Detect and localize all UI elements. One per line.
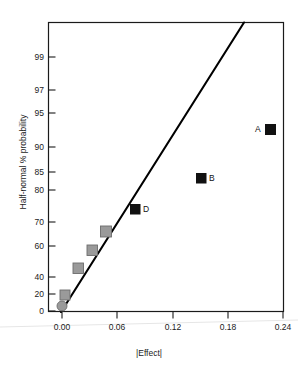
point-label-a: A	[255, 125, 261, 134]
data-point-square	[73, 263, 84, 274]
figure-background	[0, 0, 298, 368]
x-tick-label-0.06: 0.06	[97, 323, 137, 332]
data-point-square	[101, 226, 112, 237]
y-axis-label: Half-normal % probability	[18, 87, 28, 237]
y-tick-label-70: 70	[12, 218, 44, 227]
data-point-square-b	[196, 173, 207, 184]
point-label-b: B	[209, 174, 215, 183]
x-axis-label: |Effect|	[0, 348, 298, 358]
y-tick-label-90: 90	[12, 143, 44, 152]
data-point-square-a	[265, 124, 276, 135]
y-tick-label-80: 80	[12, 186, 44, 195]
y-tick-label-97: 97	[12, 86, 44, 95]
half-normal-probability-plot	[0, 0, 298, 368]
point-label-d: D	[143, 205, 149, 214]
x-tick-label-0.18: 0.18	[208, 323, 248, 332]
y-tick-label-0: 0	[12, 307, 44, 316]
y-tick-label-99: 99	[12, 53, 44, 62]
x-tick-label-0.24: 0.24	[263, 323, 298, 332]
y-tick-label-85: 85	[12, 168, 44, 177]
y-tick-label-40: 40	[12, 273, 44, 282]
y-tick-label-20: 20	[12, 290, 44, 299]
data-point-square-d	[130, 204, 141, 215]
data-point-square	[87, 245, 98, 256]
x-tick-label-0.12: 0.12	[153, 323, 193, 332]
data-point-circle	[57, 301, 67, 311]
x-tick-label-0.00: 0.00	[42, 323, 82, 332]
y-tick-label-95: 95	[12, 109, 44, 118]
y-tick-label-60: 60	[12, 242, 44, 251]
data-point-square	[60, 290, 70, 300]
